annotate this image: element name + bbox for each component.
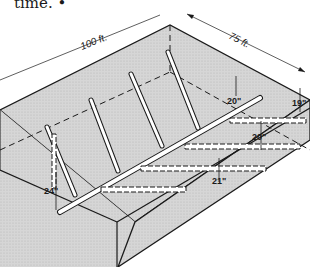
- svg-text:75 ft.: 75 ft.: [227, 30, 252, 50]
- svg-text:19": 19": [292, 98, 306, 108]
- svg-text:24": 24": [44, 186, 58, 196]
- svg-text:21": 21": [212, 176, 226, 186]
- svg-text:20": 20": [227, 96, 241, 106]
- svg-text:100 ft.: 100 ft.: [79, 31, 109, 52]
- drainage-diagram: 100 ft. 75 ft. 20" 19" 20": [0, 0, 310, 267]
- svg-text:20": 20": [252, 132, 266, 142]
